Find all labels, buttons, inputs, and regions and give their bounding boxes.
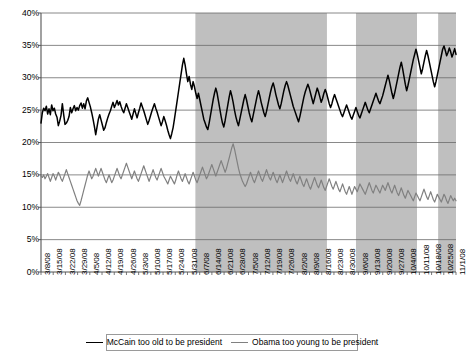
legend-entry-obama: Obama too young to be president	[231, 338, 378, 347]
legend-color-swatch	[231, 342, 248, 343]
legend-entry-mccain: McCain too old to be president	[86, 338, 222, 347]
legend-label: Obama too young to be president	[252, 338, 378, 347]
legend-color-swatch	[86, 342, 103, 343]
chart-legend: McCain too old to be presidentObama too …	[106, 334, 358, 351]
legend-label: McCain too old to be president	[107, 338, 222, 347]
